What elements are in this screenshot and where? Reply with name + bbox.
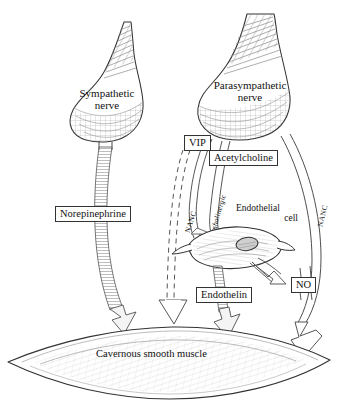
- norepinephrine-label-box: Norepinephrine: [55, 206, 131, 222]
- vip-label-box: VIP: [184, 135, 211, 151]
- nitric-oxide-label-box: NO: [291, 277, 316, 293]
- sympathetic-axon: [95, 147, 136, 334]
- sympathetic-nerve-terminal: [70, 22, 143, 150]
- endothelial-cell-label-line1: Endothelial: [236, 203, 298, 213]
- parasympathetic-nerve-label-line2: nerve: [196, 92, 304, 104]
- sympathetic-nerve-label-line2: nerve: [64, 100, 150, 112]
- nanc-dashed-arrow: [159, 150, 190, 324]
- cavernous-smooth-muscle-label: Cavernous smooth muscle: [96, 348, 207, 359]
- endothelial-cell-label-line2: cell: [236, 213, 298, 223]
- endothelial-cell-label: Endothelial cell: [236, 203, 298, 224]
- sympathetic-nerve-label: Sympathetic nerve: [64, 88, 150, 112]
- figure-canvas: Sympathetic nerve Parasympathetic nerve …: [0, 0, 338, 413]
- parasympathetic-nerve-terminal: [198, 14, 290, 140]
- endothelin-label-box: Endothelin: [196, 287, 252, 303]
- no-release-arrow: [250, 262, 286, 284]
- acetylcholine-label-box: Acetylcholine: [209, 150, 278, 166]
- parasympathetic-nerve-label: Parasympathetic nerve: [196, 80, 304, 104]
- cavernous-smooth-muscle: [8, 327, 330, 399]
